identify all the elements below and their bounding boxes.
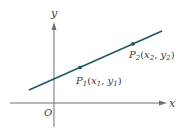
line-through-two-points-diagram: y x O P1(x1, y1) P2(x2, y2): [0, 0, 183, 131]
x-axis-arrow-icon: [159, 101, 167, 106]
y-axis-label: y: [50, 7, 58, 20]
point-p1-dot: [78, 66, 82, 70]
y-axis-arrow-icon: [52, 22, 57, 30]
origin-label: O: [44, 107, 52, 118]
point-p2-label: P2(x2, y2): [128, 49, 175, 62]
point-p1-label: P1(x1, y1): [75, 75, 122, 88]
x-axis-label: x: [169, 97, 176, 110]
point-p2-dot: [131, 42, 135, 46]
